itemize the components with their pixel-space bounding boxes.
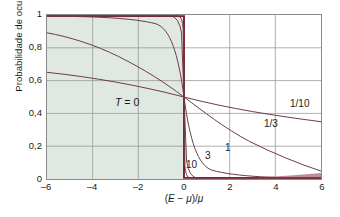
annotation-t0: T = 0 — [115, 97, 139, 108]
y-tick-1: 1 — [16, 9, 42, 19]
y-tick-02: 0,2 — [16, 141, 42, 151]
x-tick-neg4: –4 — [77, 182, 107, 192]
annotation-kt-1-10-text: 1/10 — [290, 98, 309, 109]
annotation-kt-10: 10 — [186, 160, 197, 170]
y-tick-06: 0,6 — [16, 75, 42, 85]
x-tick-neg6: –6 — [31, 182, 61, 192]
annotation-kt-1-text: 1 — [225, 142, 231, 153]
x-tick-neg2: –2 — [123, 182, 153, 192]
annotation-kt-10-text: 10 — [186, 159, 197, 170]
annotation-t0-text: T = 0 — [115, 96, 139, 108]
annotation-kt-3: 3 — [205, 151, 211, 161]
y-tick-04: 0,4 — [16, 108, 42, 118]
x-tick-6: 6 — [307, 182, 337, 192]
chart-container: Probabilidade de ocupação, P 1 0,8 0,6 0… — [0, 0, 340, 217]
x-axis-title: (E − μ)/μ — [46, 193, 322, 204]
annotation-kt-1-3-text: 1/3 — [264, 118, 278, 129]
x-axis-title-text: (E − μ)/μ — [165, 193, 204, 204]
x-tick-2: 2 — [215, 182, 245, 192]
annotation-kt-1-10: 1/10 — [290, 99, 309, 109]
annotation-kt-1: 1 — [225, 143, 231, 153]
annotation-kt-1-3: 1/3 — [264, 119, 278, 129]
x-tick-4: 4 — [261, 182, 291, 192]
annotation-kt-3-text: 3 — [205, 150, 211, 161]
x-tick-0: 0 — [169, 182, 199, 192]
plot-area: T = 0 10 3 1 1/3 1/10 — [46, 14, 322, 180]
y-tick-08: 0,8 — [16, 42, 42, 52]
plot-svg — [47, 15, 321, 179]
